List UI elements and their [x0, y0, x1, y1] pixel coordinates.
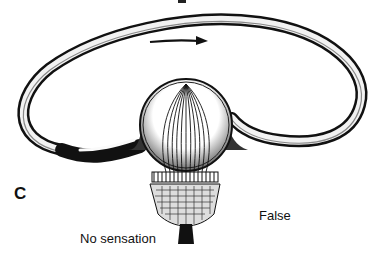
canal-illustration — [0, 0, 373, 261]
semicircular-canal-diagram: C False No sensation — [0, 0, 373, 261]
arrow-right-icon — [150, 36, 208, 45]
cropped-text-fragment — [178, 0, 186, 3]
ampulla — [128, 79, 248, 172]
panel-letter: C — [14, 184, 26, 204]
label-no-sensation: No sensation — [80, 231, 156, 246]
label-false: False — [259, 208, 291, 223]
crista-ampullaris — [150, 172, 220, 244]
nerve-stem — [178, 224, 194, 244]
